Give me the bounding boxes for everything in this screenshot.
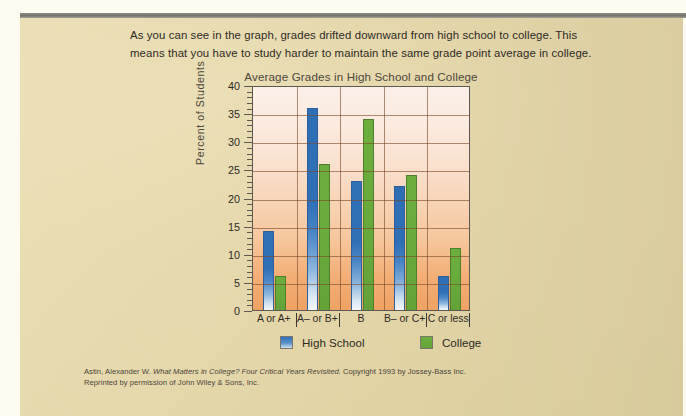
legend-swatch-icon [420,336,433,349]
y-tick-label: 25 [228,164,240,176]
source-citation: Astin, Alexander W. What Matters in Coll… [84,366,604,388]
bar-high-school [307,108,318,311]
x-label-separator [426,313,427,327]
x-label-separator [469,313,470,327]
y-tick-label: 15 [228,221,240,233]
x-label-separator [339,313,340,327]
legend-label: High School [302,336,365,349]
y-tick-label: 5 [234,277,240,289]
chart-title: Average Grades in High School and Colleg… [196,70,526,83]
screenshot-root: As you can see in the graph, grades drif… [0,0,686,416]
horizontal-gridline [253,256,469,257]
legend-label: College [442,336,481,349]
citation-author: Astin, Alexander W. [84,367,153,376]
bar-college [363,119,374,310]
x-category-label: A or A+ [252,313,296,324]
y-tick-label: 35 [228,108,240,120]
bar-college [450,248,461,310]
y-tick-label: 20 [228,193,240,205]
horizontal-gridline [253,171,469,172]
bar-series-container [253,87,469,310]
bar-college [319,164,330,310]
y-tick-major [244,227,252,228]
y-axis-label: Percent of Students [194,61,206,165]
y-axis-ticks [244,86,252,311]
y-axis-tick-labels: 0510152025303540 [206,86,240,311]
horizontal-gridline [253,200,469,201]
x-category-label: B [339,313,383,324]
y-tick-major [244,114,252,115]
y-tick-major [244,311,252,312]
legend-swatch-icon [280,336,293,349]
y-tick-major [244,170,252,171]
y-tick-major [244,199,252,200]
bar-college [406,175,417,310]
x-category-label: C or less [426,313,470,324]
legend-item-high-school: High School [280,336,365,349]
bar-high-school [394,186,405,310]
y-tick-major [244,142,252,143]
horizontal-gridline [253,228,469,229]
citation-permission: Reprinted by permission of John Wiley & … [84,378,259,387]
y-tick-major [244,255,252,256]
vertical-gridline [297,87,298,310]
vertical-gridline [427,87,428,310]
y-tick-label: 0 [234,305,240,317]
y-tick-major [244,86,252,87]
x-category-label: B– or C+ [383,313,427,324]
plot-area [252,86,470,311]
y-tick-label: 30 [228,136,240,148]
citation-copyright: Copyright 1993 by Jossey-Bass Inc. [341,367,466,376]
chart-legend: High SchoolCollege [230,336,500,356]
y-tick-major [244,283,252,284]
legend-item-college: College [420,336,481,349]
body-paragraph: As you can see in the graph, grades drif… [130,26,600,62]
x-category-label: A– or B+ [296,313,340,324]
horizontal-gridline [253,143,469,144]
x-axis-category-labels: A or A+A– or B+BB– or C+C or less [252,313,470,329]
vertical-gridline [340,87,341,310]
vertical-gridline [384,87,385,310]
y-tick-label: 10 [228,249,240,261]
bar-chart: Average Grades in High School and Colleg… [196,70,526,365]
y-tick-label: 40 [228,80,240,92]
citation-title: What Matters in College? Four Critical Y… [153,367,341,376]
bar-college [275,276,286,310]
x-label-separator [296,313,297,327]
bar-high-school [438,276,449,310]
bar-high-school [263,231,274,310]
horizontal-gridline [253,115,469,116]
horizontal-gridline [253,284,469,285]
